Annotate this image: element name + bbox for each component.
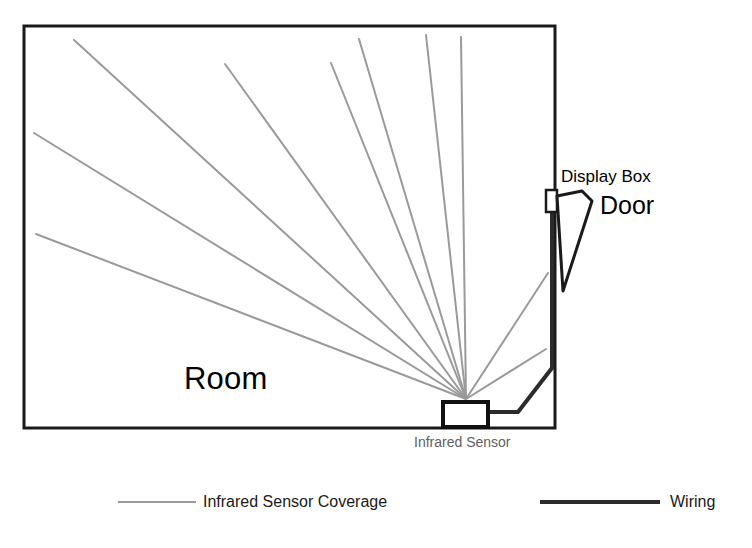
coverage-ray-4 (331, 63, 466, 399)
wiring-path (488, 212, 552, 412)
infrared-coverage-rays (34, 35, 548, 399)
coverage-ray-3 (225, 64, 466, 399)
infrared-sensor-box (443, 402, 488, 427)
legend-label-wiring: Wiring (670, 494, 715, 510)
display-box-label: Display Box (561, 168, 651, 185)
room-boundary (24, 26, 555, 428)
door-label: Door (600, 193, 654, 218)
legend-label-coverage: Infrared Sensor Coverage (203, 494, 387, 510)
coverage-ray-6 (426, 35, 466, 399)
infrared-sensor-label: Infrared Sensor (414, 435, 511, 449)
diagram-svg (0, 0, 752, 548)
coverage-ray-1 (34, 133, 466, 399)
display-box-shape (546, 190, 557, 212)
diagram-canvas: Room Display Box Door Infrared Sensor In… (0, 0, 752, 548)
coverage-ray-0 (74, 40, 466, 399)
coverage-ray-8 (466, 273, 548, 399)
coverage-ray-5 (359, 39, 466, 399)
coverage-ray-7 (461, 37, 466, 399)
door-shape (557, 191, 592, 291)
room-label: Room (184, 363, 268, 394)
